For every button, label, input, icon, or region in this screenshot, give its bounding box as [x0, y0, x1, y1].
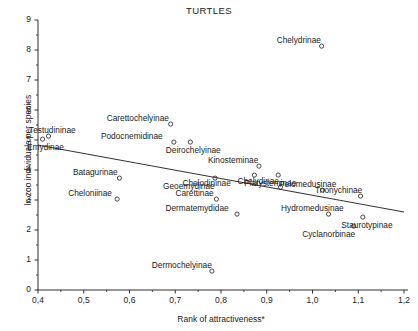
data-point-label: Hydromedusinae [281, 203, 344, 213]
data-point-label: Kinosteminae [208, 155, 258, 165]
data-point-label: Chelydinae [237, 176, 279, 186]
x-tick-label: 1,2 [389, 295, 418, 305]
data-point [361, 215, 365, 219]
x-tick-label: 0,8 [206, 295, 236, 305]
y-tick-label: 2 [13, 224, 31, 234]
plot-area [0, 0, 418, 331]
data-point [40, 137, 44, 141]
scatter-chart: TURTLES ln zoo individuals per species R… [0, 0, 418, 331]
y-tick-label: 0 [13, 284, 31, 294]
y-tick-label: 3 [13, 194, 31, 204]
y-tick-label: 9 [13, 14, 31, 24]
data-point-label: Dermochelyinae [152, 260, 212, 270]
x-tick-label: 1,0 [298, 295, 328, 305]
data-point-label: Testudininae [29, 125, 76, 135]
data-point-label: Trionychinae [315, 185, 362, 195]
y-tick-label: 1 [13, 254, 31, 264]
data-point-label: Carettochelyinae [107, 113, 169, 123]
data-point-label: Emydinae [27, 142, 64, 152]
data-point-label: Cyclanorbinae [302, 229, 355, 239]
y-tick-label: 6 [13, 104, 31, 114]
data-point-label: Dermatemydidae [166, 203, 229, 213]
data-point-label: Deirochelyinae [166, 145, 221, 155]
x-tick-label: 0,9 [252, 295, 282, 305]
x-tick-label: 1,1 [343, 295, 373, 305]
x-tick-label: 0,4 [23, 295, 53, 305]
data-point-label: Carettinae [175, 188, 213, 198]
y-tick-label: 4 [13, 164, 31, 174]
data-point [214, 197, 218, 201]
data-point-label: Chelydrinae [277, 35, 321, 45]
y-tick-label: 7 [13, 74, 31, 84]
x-tick-label: 0,7 [160, 295, 190, 305]
data-point [235, 212, 239, 216]
data-point [172, 140, 176, 144]
x-tick-label: 0,5 [69, 295, 99, 305]
data-point-label: Cheloniinae [68, 188, 112, 198]
data-point [169, 122, 173, 126]
x-tick-label: 0,6 [115, 295, 145, 305]
data-point [188, 140, 192, 144]
data-point-label: Batagurinae [73, 167, 118, 177]
y-tick-label: 8 [13, 44, 31, 54]
data-point-label: Chelodininae [182, 178, 230, 188]
data-point-label: Podocnemidinae [101, 131, 163, 141]
data-point [115, 197, 119, 201]
